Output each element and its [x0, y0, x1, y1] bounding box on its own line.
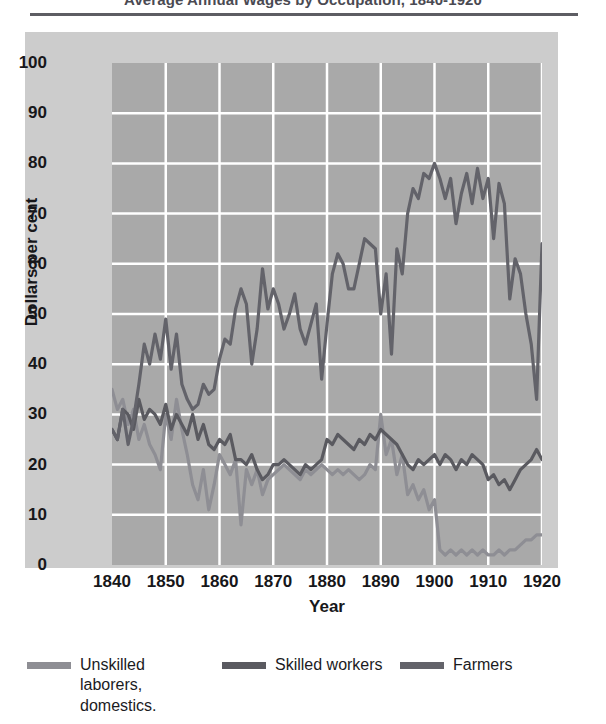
legend-label: Farmers — [453, 655, 513, 675]
x-tick-label: 1880 — [299, 573, 355, 590]
legend-item-2[interactable]: Farmers — [400, 655, 513, 675]
legend-label: Unskilled laborers, domestics. — [80, 655, 156, 716]
y-tick-label: 30 — [1, 405, 47, 422]
legend-label: Skilled workers — [275, 655, 383, 675]
x-tick-label: 1860 — [192, 573, 248, 590]
y-tick-label: 70 — [1, 205, 47, 222]
legend-swatch-icon — [27, 662, 71, 669]
legend-item-0[interactable]: Unskilled laborers, domestics. — [27, 655, 156, 716]
x-tick-label: 1900 — [407, 573, 463, 590]
x-tick-label: 1850 — [138, 573, 194, 590]
y-tick-label: 90 — [1, 104, 47, 121]
y-tick-label: 20 — [1, 456, 47, 473]
x-tick-label: 1920 — [514, 573, 570, 590]
chart-figure: Average Annual Wages by Occupation, 1840… — [0, 0, 606, 724]
y-tick-label: 10 — [1, 506, 47, 523]
y-tick-label: 50 — [1, 305, 47, 322]
chart-legend: Unskilled laborers, domestics.Skilled wo… — [0, 655, 606, 724]
plot-area — [112, 63, 542, 565]
chart-title: Average Annual Wages by Occupation, 1840… — [0, 0, 606, 8]
x-tick-label: 1840 — [84, 573, 140, 590]
legend-item-1[interactable]: Skilled workers — [222, 655, 383, 675]
y-tick-label: 0 — [1, 556, 47, 573]
y-tick-label: 60 — [1, 255, 47, 272]
y-tick-label: 40 — [1, 355, 47, 372]
legend-swatch-icon — [222, 662, 266, 669]
plot-svg — [112, 63, 542, 565]
y-tick-label: 100 — [1, 54, 47, 71]
legend-swatch-icon — [400, 662, 444, 669]
x-tick-label: 1890 — [353, 573, 409, 590]
y-tick-label: 80 — [1, 154, 47, 171]
x-tick-label: 1870 — [245, 573, 301, 590]
x-axis-label: Year — [112, 597, 542, 617]
title-divider — [30, 13, 578, 16]
x-tick-label: 1910 — [460, 573, 516, 590]
